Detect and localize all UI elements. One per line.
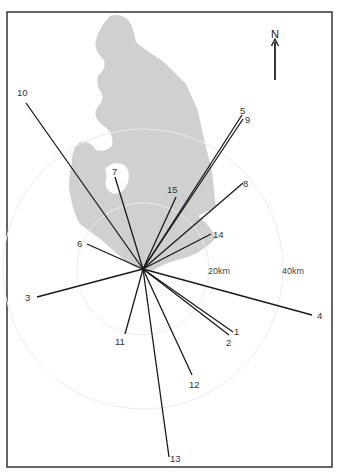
ray-label-14: 14 [213,229,224,240]
ray-label-15: 15 [167,184,178,195]
ray-label-11: 11 [115,336,125,347]
north-label: N [271,28,279,40]
ray-label-1: 1 [234,326,239,337]
ray-label-2: 2 [226,337,231,348]
scale-label-40km: 40km [282,266,304,276]
ray-label-3: 3 [25,292,30,303]
ray-label-4: 4 [317,310,322,321]
ray-label-9: 9 [245,114,250,125]
ray-label-7: 7 [112,166,117,177]
ray-label-13: 13 [170,453,181,464]
ray-label-12: 12 [189,379,200,390]
ray-label-10: 10 [17,87,28,98]
radial-distance-map: 123456789101112131415 20km40km N [0,0,339,475]
ray-label-8: 8 [243,178,248,189]
scale-label-20km: 20km [208,266,230,276]
ray-label-6: 6 [77,238,82,249]
